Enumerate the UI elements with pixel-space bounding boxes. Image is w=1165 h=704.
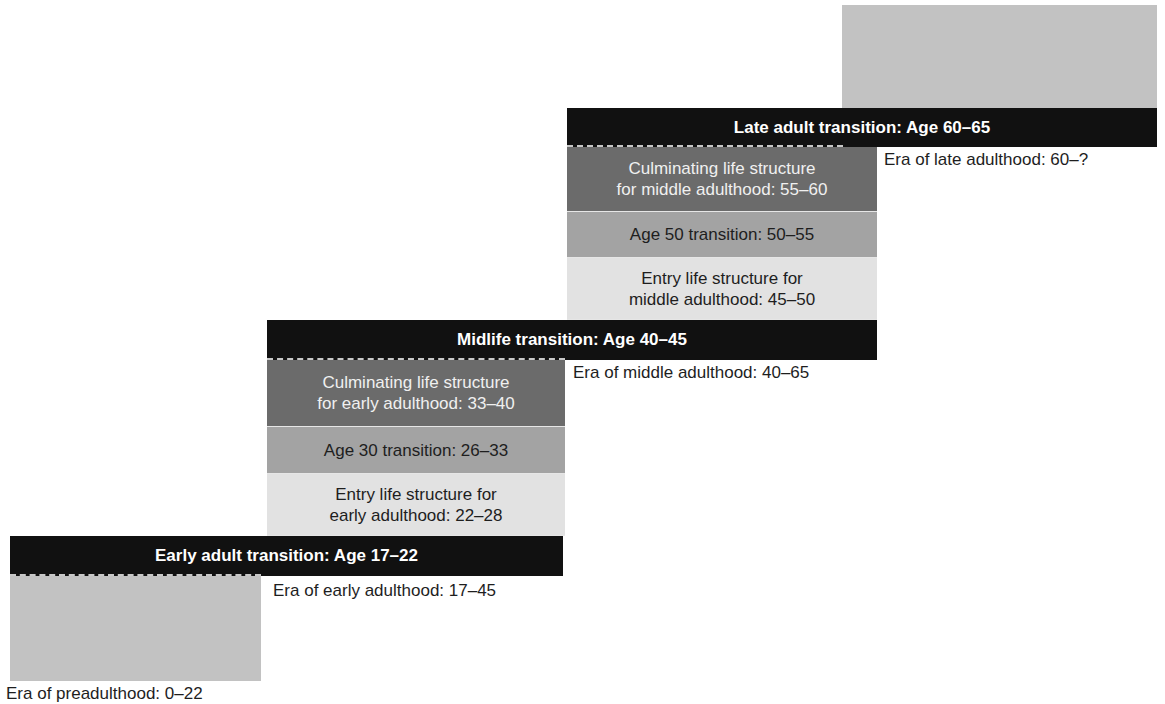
early-adult-transition-bar: Early adult transition: Age 17–22 [10,536,563,576]
early-adult-transition-label: Early adult transition: Age 17–22 [155,546,418,566]
age-50-transition-label: Age 50 transition: 50–55 [630,224,814,245]
early-culminating-structure-box: Culminating life structure for early adu… [267,360,565,427]
preadulthood-era-block [10,576,261,681]
age-30-transition-box: Age 30 transition: 26–33 [267,427,565,474]
preadulthood-era-caption: Era of preadulthood: 0–22 [6,684,203,704]
early-entry-line1: Entry life structure for [330,484,503,505]
middle-culminating-line2: for middle adulthood: 55–60 [617,179,828,200]
middle-culminating-line1: Culminating life structure [617,158,828,179]
early-culminating-line1: Culminating life structure [317,372,515,393]
late-adult-transition-label: Late adult transition: Age 60–65 [734,118,990,138]
late-adulthood-era-block [842,5,1157,108]
middle-entry-structure-box: Entry life structure for middle adulthoo… [567,258,877,320]
age-30-transition-label: Age 30 transition: 26–33 [324,440,508,461]
midlife-transition-label: Midlife transition: Age 40–45 [457,330,687,350]
middle-culminating-structure-box: Culminating life structure for middle ad… [567,147,877,212]
early-entry-line2: early adulthood: 22–28 [330,505,503,526]
late-adult-transition-bar: Late adult transition: Age 60–65 [567,108,1157,147]
age-50-transition-box: Age 50 transition: 50–55 [567,212,877,258]
middle-entry-line1: Entry life structure for [629,268,815,289]
middle-entry-line2: middle adulthood: 45–50 [629,289,815,310]
late-adulthood-era-caption: Era of late adulthood: 60–? [884,150,1088,170]
middle-adulthood-era-caption: Era of middle adulthood: 40–65 [573,363,809,383]
early-entry-structure-box: Entry life structure for early adulthood… [267,474,565,536]
early-adulthood-era-caption: Era of early adulthood: 17–45 [273,581,496,601]
early-culminating-line2: for early adulthood: 33–40 [317,393,515,414]
midlife-transition-bar: Midlife transition: Age 40–45 [267,320,877,360]
